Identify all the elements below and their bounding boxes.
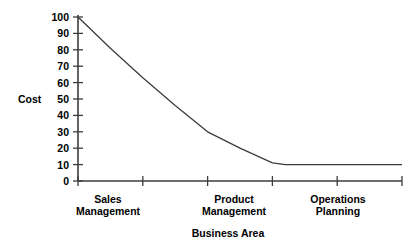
chart-canvas: 100 90 80 70 60 50 40 30 20 10 0 Cost S	[0, 0, 417, 249]
cost-curve-line	[78, 17, 402, 165]
y-tick-label-0: 0	[63, 175, 69, 187]
y-tick-label-60: 60	[57, 77, 69, 89]
y-tick-label-80: 80	[57, 44, 69, 56]
category-label-sales-management-line1: Sales	[94, 193, 122, 205]
x-axis-title: Business Area	[192, 227, 265, 239]
y-tick-label-30: 30	[57, 126, 69, 138]
y-tick-label-40: 40	[57, 109, 69, 121]
y-tick-label-100: 100	[51, 11, 69, 23]
y-axis-tick-labels: 100 90 80 70 60 50 40 30 20 10 0	[51, 11, 69, 187]
category-label-operations-planning-line1: Operations	[310, 193, 366, 205]
y-tick-label-70: 70	[57, 60, 69, 72]
y-tick-label-10: 10	[57, 159, 69, 171]
y-tick-label-90: 90	[57, 27, 69, 39]
x-category-labels: Sales Management Product Management Oper…	[76, 193, 366, 217]
category-label-sales-management-line2: Management	[76, 205, 141, 217]
y-tick-label-20: 20	[57, 142, 69, 154]
category-label-operations-planning-line2: Planning	[316, 205, 360, 217]
y-axis-title: Cost	[18, 93, 42, 105]
category-label-product-management-line1: Product	[214, 193, 254, 205]
cost-vs-business-area-chart: 100 90 80 70 60 50 40 30 20 10 0 Cost S	[0, 0, 417, 249]
category-label-product-management-line2: Management	[202, 205, 267, 217]
y-tick-label-50: 50	[57, 93, 69, 105]
